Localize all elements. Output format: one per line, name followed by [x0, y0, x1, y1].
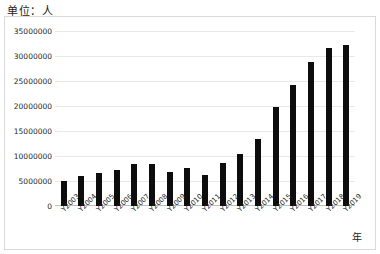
y-axis-tick-label: 15000000 — [0, 127, 52, 136]
y-axis-unit-label: 单位：人 — [7, 2, 53, 18]
bar — [343, 45, 349, 207]
y-axis-tick-label: 25000000 — [0, 77, 52, 86]
bar — [149, 164, 155, 206]
x-axis-tick-labels: Y2003Y2004Y2005Y2006Y2007Y2008Y2009Y2010… — [55, 208, 355, 248]
bar — [326, 48, 332, 207]
bar — [308, 62, 314, 207]
y-axis-tick-label: 30000000 — [0, 52, 52, 61]
plot-area — [55, 31, 355, 206]
y-axis-tick-labels: 0500000010000000150000002000000025000000… — [0, 31, 52, 206]
y-axis-tick-label: 20000000 — [0, 102, 52, 111]
y-axis-tick-label: 10000000 — [0, 152, 52, 161]
bar — [290, 85, 296, 206]
chart-figure: 单位：人 05000000100000001500000020000000250… — [0, 0, 380, 254]
bar — [273, 107, 279, 206]
y-axis-tick-label: 35000000 — [0, 27, 52, 36]
y-axis-tick-label: 5000000 — [0, 177, 52, 186]
gridline — [55, 31, 355, 32]
y-axis-tick-label: 0 — [0, 202, 52, 211]
x-axis-title: 年 — [352, 229, 362, 244]
gridline — [55, 56, 355, 57]
